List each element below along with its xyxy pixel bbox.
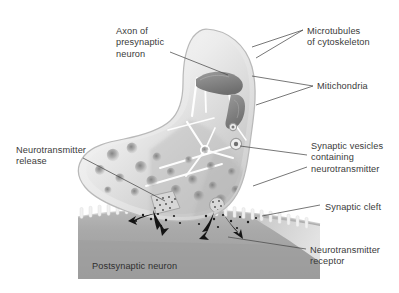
leader-mito-a xyxy=(252,76,313,86)
label-mitichondria: Mitichondria xyxy=(317,81,368,92)
label-synaptic-vesicles: Synaptic vesicles containing neurotransm… xyxy=(311,141,383,175)
label-postsynaptic-neuron: Postsynaptic neuron xyxy=(92,261,177,272)
label-neurotransmitter-release: Neurotransmitter release xyxy=(16,145,86,168)
leader-microtubules-a xyxy=(252,30,303,47)
label-synaptic-cleft: Synaptic cleft xyxy=(325,202,381,213)
synapse-diagram: Axon of presynaptic neuron Microtubules … xyxy=(0,0,399,293)
leader-mito-b xyxy=(256,86,313,105)
label-microtubules-of-cytoskeleton: Microtubules of cytoskeleton xyxy=(307,26,370,49)
leader-vesicles xyxy=(240,146,307,155)
axon-terminal-bulb xyxy=(79,29,257,225)
leader-cleft xyxy=(262,205,320,216)
label-neurotransmitter-receptor: Neurotransmitter receptor xyxy=(310,245,380,268)
label-axon-of-presynaptic-neuron: Axon of presynaptic neuron xyxy=(116,26,164,60)
leader-vesicles-b xyxy=(253,167,307,186)
leader-microtubules-b xyxy=(256,30,303,58)
